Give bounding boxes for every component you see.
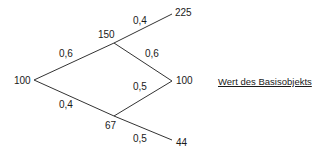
node-root: 100 (14, 75, 31, 86)
prob-down-up: 0,5 (133, 81, 147, 92)
prob-up-down: 0,6 (145, 48, 159, 59)
prob-down-down: 0,5 (133, 133, 147, 144)
prob-root-up: 0,6 (59, 48, 73, 59)
node-upup: 225 (175, 7, 192, 18)
node-middle: 100 (176, 75, 193, 86)
node-up: 150 (98, 29, 115, 40)
edge-up-middle (114, 43, 172, 81)
node-down: 67 (105, 120, 116, 131)
legend-label: Wert des Basisobjekts (218, 76, 312, 87)
prob-up-up: 0,4 (133, 15, 147, 26)
edge-root-down (34, 80, 114, 116)
edge-root-up (34, 43, 114, 80)
prob-root-down: 0,4 (59, 99, 73, 110)
node-downdown: 44 (176, 137, 187, 148)
